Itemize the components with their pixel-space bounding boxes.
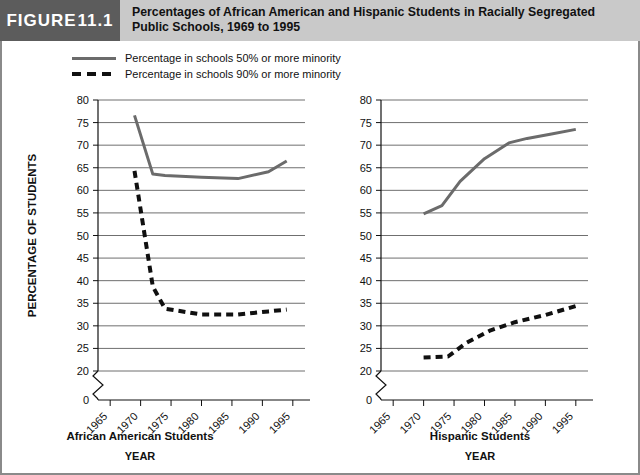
ytick-label-25: 25 [77, 342, 89, 354]
chart-right-svg: 2025303540455055606570758001965197019751… [335, 88, 630, 468]
ytick-label-25: 25 [360, 342, 372, 354]
figure-page: FIGURE 11.1 Percentages of African Ameri… [0, 0, 640, 475]
ytick-label-60: 60 [77, 184, 89, 196]
y-axis-title: PERCENTAGE OF STUDENTS [26, 153, 38, 317]
left-chart-xlabel: YEAR [5, 450, 275, 462]
chart-hispanic-students: 2025303540455055606570758001965197019751… [335, 88, 630, 468]
figure-badge-word: FIGURE [6, 11, 76, 31]
y-axis-break-icon [376, 371, 386, 399]
ytick-label-45: 45 [360, 252, 372, 264]
chart-left-svg: 2025303540455055606570758001965197019751… [20, 88, 320, 468]
series-line-dashed [424, 306, 576, 357]
right-chart-title: Hispanic Students [345, 430, 615, 442]
legend-label-solid: Percentage in schools 50% or more minori… [125, 52, 341, 64]
left-chart-title: African American Students [5, 430, 275, 442]
ytick-label-40: 40 [360, 275, 372, 287]
series-line-dashed [135, 171, 287, 315]
ytick-label-50: 50 [360, 230, 372, 242]
legend-item-dashed: Percentage in schools 90% or more minori… [72, 66, 341, 82]
ytick-label-45: 45 [77, 252, 89, 264]
ytick-label-65: 65 [77, 162, 89, 174]
legend-label-dashed: Percentage in schools 90% or more minori… [125, 68, 341, 80]
ytick-label-55: 55 [77, 207, 89, 219]
ytick-label-20: 20 [77, 365, 89, 377]
ytick-label-80: 80 [77, 94, 89, 106]
ytick-label-35: 35 [360, 297, 372, 309]
y-axis-break-icon [93, 371, 103, 399]
ytick-label-40: 40 [77, 275, 89, 287]
figure-header: FIGURE 11.1 Percentages of African Ameri… [0, 0, 640, 41]
figure-badge-number: 11.1 [77, 11, 113, 31]
series-line-solid [135, 115, 287, 178]
ytick-label-65: 65 [360, 162, 372, 174]
ytick-label-75: 75 [360, 117, 372, 129]
ytick-label-30: 30 [360, 320, 372, 332]
series-line-solid [424, 129, 576, 213]
ytick-label-75: 75 [77, 117, 89, 129]
legend-item-solid: Percentage in schools 50% or more minori… [72, 50, 341, 66]
chart-legend: Percentage in schools 50% or more minori… [72, 50, 341, 82]
ytick-label-70: 70 [77, 139, 89, 151]
legend-swatch-solid-line [72, 52, 116, 64]
ytick-label-30: 30 [77, 320, 89, 332]
ytick-label-50: 50 [77, 230, 89, 242]
ytick-label-60: 60 [360, 184, 372, 196]
right-chart-xlabel: YEAR [345, 450, 615, 462]
ytick-label-0: 0 [366, 394, 372, 406]
ytick-label-20: 20 [360, 365, 372, 377]
ytick-label-0: 0 [83, 394, 89, 406]
legend-swatch-dashed-line [72, 68, 116, 80]
frame-left-edge [0, 41, 2, 475]
figure-badge: FIGURE 11.1 [0, 0, 120, 41]
ytick-label-35: 35 [77, 297, 89, 309]
ytick-label-80: 80 [360, 94, 372, 106]
ytick-label-70: 70 [360, 139, 372, 151]
ytick-label-55: 55 [360, 207, 372, 219]
figure-title: Percentages of African American and Hisp… [120, 0, 640, 41]
chart-african-american-students: 2025303540455055606570758001965197019751… [20, 88, 320, 468]
